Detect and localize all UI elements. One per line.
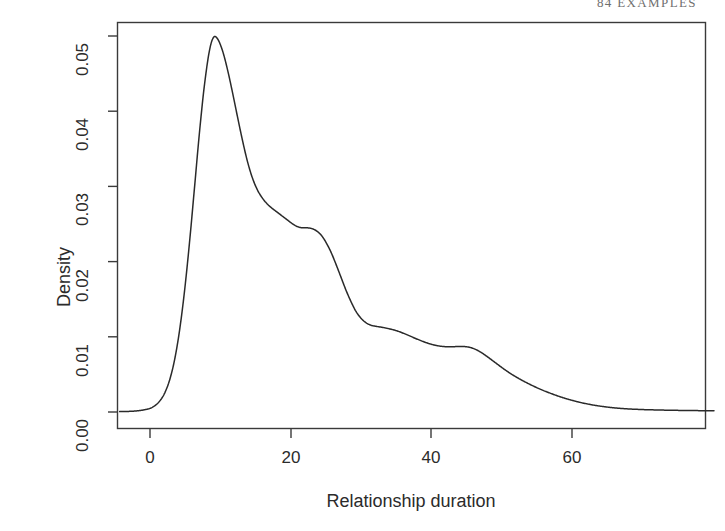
plot-frame [118,23,706,429]
y-tick-label-5: 0.05 [74,37,91,83]
plot-canvas [0,0,725,531]
y-axis-ticks [108,36,118,412]
y-tick-label-4: 0.04 [74,112,91,158]
y-tick-label-0: 0.00 [74,413,91,459]
x-axis-ticks [150,429,572,439]
x-tick-label-3: 60 [542,449,602,466]
y-tick-label-1: 0.01 [74,337,91,383]
y-axis-title: Density [55,227,73,327]
x-axis-title: Relationship duration [161,492,661,510]
density-curve [120,36,714,411]
density-plot-figure: 0.00 0.01 0.02 0.03 0.04 0.05 0 20 40 60… [0,0,725,531]
x-tick-label-0: 0 [120,449,180,466]
x-tick-label-1: 20 [261,449,321,466]
y-tick-label-3: 0.03 [74,187,91,233]
y-tick-label-2: 0.02 [74,262,91,308]
x-tick-label-2: 40 [401,449,461,466]
